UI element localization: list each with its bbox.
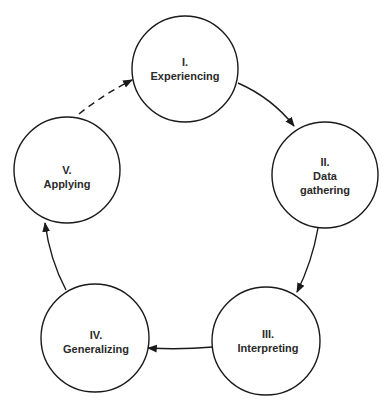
node-label-data-gathering: II. Data gathering xyxy=(275,155,375,197)
arrow-interpreting-to-generalizing xyxy=(148,347,213,349)
node-number: V. xyxy=(17,163,117,177)
arrow-experiencing-to-data-gathering xyxy=(238,83,294,126)
node-number: III. xyxy=(218,327,318,341)
node-text: gathering xyxy=(275,183,375,197)
node-number: I. xyxy=(135,55,235,69)
node-text: Experiencing xyxy=(135,69,235,83)
node-label-interpreting: III. Interpreting xyxy=(218,327,318,355)
arrow-generalizing-to-applying xyxy=(45,223,66,290)
node-label-experiencing: I. Experiencing xyxy=(135,55,235,83)
node-label-applying: V. Applying xyxy=(17,163,117,191)
node-number: IV. xyxy=(46,328,146,342)
node-text: Generalizing xyxy=(46,342,146,356)
arrow-data-gathering-to-interpreting xyxy=(297,228,318,292)
node-text: Data xyxy=(275,169,375,183)
node-text: Interpreting xyxy=(218,341,318,355)
node-label-generalizing: IV. Generalizing xyxy=(46,328,146,356)
node-number: II. xyxy=(275,155,375,169)
node-text: Applying xyxy=(17,177,117,191)
arrow-applying-to-experiencing-dashed xyxy=(79,80,132,114)
